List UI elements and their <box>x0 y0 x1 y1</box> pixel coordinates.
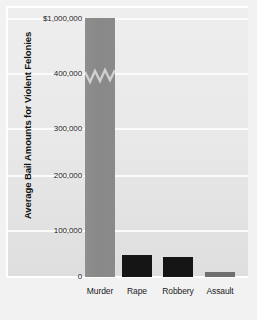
plot-area-top-border <box>7 6 248 8</box>
y-axis-tick-label: 400,000 <box>2 69 82 78</box>
y-axis-tick-label: 0 <box>2 272 82 281</box>
category-label-assault: Assault <box>180 286 257 296</box>
plot-area <box>7 7 248 277</box>
bar-rape <box>122 255 152 277</box>
axis-break-zigzag-icon <box>85 66 115 88</box>
y-axis-tick-label: 200,000 <box>2 171 82 180</box>
bar-assault <box>205 272 235 277</box>
y-axis-tick-label: 300,000 <box>2 124 82 133</box>
y-axis-tick-label: 100,000 <box>2 226 82 235</box>
bar-robbery <box>163 257 193 277</box>
y-axis-title: Average Bail Amounts for Violent Felonie… <box>22 26 33 226</box>
bar-chart: $1,000,000400,000300,000200,000100,0000 … <box>0 0 257 320</box>
y-axis-tick-label: $1,000,000 <box>2 14 82 23</box>
bar-murder <box>85 18 115 277</box>
plot-area-left-border <box>6 6 8 278</box>
